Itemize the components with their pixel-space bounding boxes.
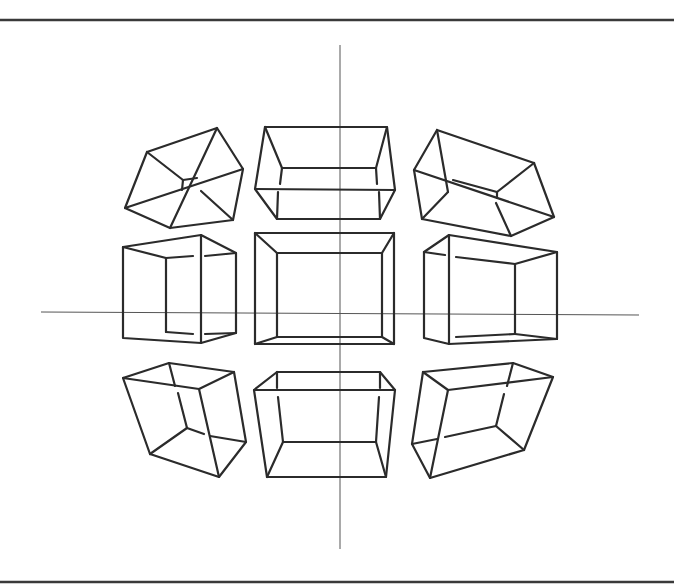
cube-edge: [267, 442, 283, 477]
cube-edge: [414, 130, 554, 236]
cube-edge: [280, 168, 282, 184]
cube-edge: [424, 235, 557, 344]
cube-edge: [182, 180, 183, 190]
cube-edge: [515, 334, 557, 339]
cube-edge: [255, 233, 394, 344]
cube-edge: [423, 372, 448, 390]
cube-edge: [166, 256, 193, 258]
cube-edge: [201, 191, 233, 220]
cube-bottom-left: [123, 363, 246, 477]
cube-edge: [376, 442, 386, 477]
cube-top-left: [125, 128, 243, 228]
cube-edge: [382, 233, 394, 253]
cube-edge: [496, 203, 511, 236]
cube-edge: [496, 426, 524, 450]
cube-edge: [205, 253, 236, 256]
cube-edge: [414, 170, 554, 217]
cube-edge: [265, 127, 282, 168]
cube-edge: [424, 252, 445, 255]
cube-edge: [199, 372, 234, 389]
cube-edge: [448, 377, 553, 390]
cube-edge: [379, 192, 380, 219]
cube-bottom-center: [254, 372, 395, 477]
cube-edge: [178, 393, 187, 428]
cube-edge: [255, 189, 395, 190]
cube-edge: [210, 436, 246, 442]
cube-edge: [422, 192, 448, 219]
perspective-cubes-diagram: [0, 0, 674, 584]
cube-edge: [277, 192, 278, 219]
cube-middle-center: [255, 233, 394, 344]
cube-edge: [376, 397, 379, 442]
cube-top-center: [255, 127, 395, 219]
cube-edge: [456, 257, 515, 264]
cube-bottom-right: [412, 363, 553, 478]
cube-edge: [497, 163, 534, 192]
cube-edge: [123, 378, 199, 389]
cube-edge: [125, 169, 243, 208]
cube-middle-left: [123, 235, 236, 343]
cube-edge: [430, 390, 448, 478]
cube-edge: [150, 428, 187, 454]
cube-edge: [255, 233, 277, 253]
cube-edge: [255, 127, 395, 219]
cube-edge: [205, 333, 236, 334]
cube-edge: [412, 439, 437, 444]
cube-edge: [147, 152, 183, 180]
cube-edge: [123, 247, 166, 258]
cube-edge: [278, 397, 283, 442]
cube-edge: [376, 127, 387, 168]
cube-edge: [183, 178, 197, 180]
cube-edge: [515, 252, 557, 264]
cube-edge: [445, 426, 496, 437]
cube-edge: [166, 332, 193, 334]
cube-edge: [376, 168, 377, 184]
cube-edge: [496, 394, 504, 426]
cube-middle-right: [424, 235, 557, 344]
cube-edge: [456, 334, 515, 337]
cube-edge: [437, 130, 448, 192]
cube-edge: [187, 428, 204, 434]
cube-edge: [277, 253, 382, 337]
cube-edge: [169, 363, 175, 386]
cube-top-right: [414, 130, 554, 236]
